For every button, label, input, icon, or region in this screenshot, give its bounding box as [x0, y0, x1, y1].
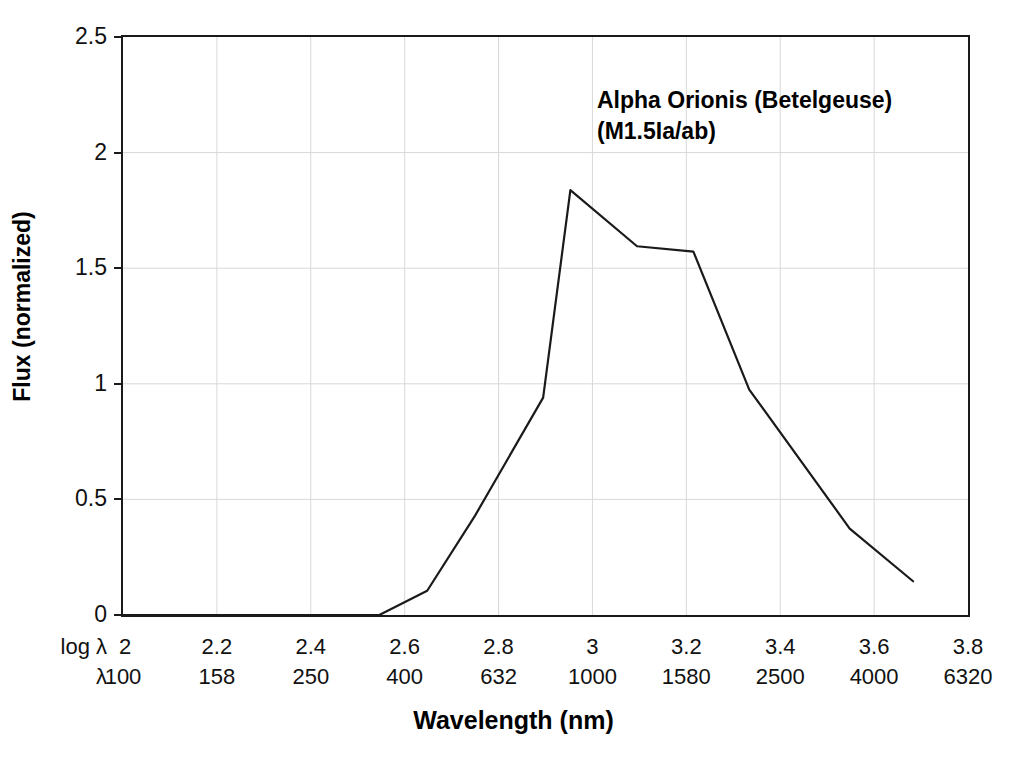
x-axis-title: Wavelength (nm)	[0, 706, 1027, 735]
x-tick-label-lambda: 100	[78, 664, 168, 690]
x-axis-row-head-log-lambda: log λ	[11, 634, 107, 660]
y-tick-mark	[114, 614, 122, 616]
x-tick-label-lambda: 6320	[923, 664, 1013, 690]
x-tick-label-log-lambda: 2.6	[360, 634, 450, 660]
y-tick-mark	[114, 498, 122, 500]
x-tick-label-lambda: 1000	[547, 664, 637, 690]
x-tick-label-log-lambda: 2	[119, 634, 179, 660]
y-tick-label: 1	[47, 372, 107, 395]
x-tick-label-lambda: 400	[360, 664, 450, 690]
x-tick-label-lambda: 250	[266, 664, 356, 690]
x-tick-label-lambda: 632	[454, 664, 544, 690]
x-tick-label-log-lambda: 3.8	[923, 634, 1013, 660]
x-tick-label-log-lambda: 2.4	[266, 634, 356, 660]
y-tick-mark	[114, 152, 122, 154]
y-tick-label: 0	[47, 603, 107, 626]
y-tick-label: 1.5	[47, 256, 107, 279]
annotation-line-1: Alpha Orionis (Betelgeuse)	[597, 85, 892, 116]
x-tick-label-log-lambda: 2.2	[172, 634, 262, 660]
y-tick-mark	[114, 383, 122, 385]
x-tick-label-lambda: 2500	[735, 664, 825, 690]
series-annotation: Alpha Orionis (Betelgeuse) (M1.5Ia/ab)	[597, 85, 892, 147]
y-tick-mark	[114, 36, 122, 38]
x-tick-label-log-lambda: 2.8	[454, 634, 544, 660]
x-tick-label-log-lambda: 3.6	[829, 634, 919, 660]
annotation-line-2: (M1.5Ia/ab)	[597, 116, 892, 147]
x-tick-label-log-lambda: 3.2	[641, 634, 731, 660]
y-tick-mark	[114, 267, 122, 269]
spectrum-polyline	[123, 190, 913, 615]
y-tick-label: 2.5	[47, 25, 107, 48]
x-tick-label-log-lambda: 3	[547, 634, 637, 660]
x-tick-label-lambda: 4000	[829, 664, 919, 690]
y-tick-label: 2	[47, 141, 107, 164]
chart-page: 00.511.522.5 Flux (normalized) log λ22.2…	[0, 0, 1027, 770]
y-axis-title: Flux (normalized)	[9, 27, 36, 587]
y-tick-label: 0.5	[47, 487, 107, 510]
x-tick-label-lambda: 158	[172, 664, 262, 690]
x-tick-label-log-lambda: 3.4	[735, 634, 825, 660]
x-tick-label-lambda: 1580	[641, 664, 731, 690]
